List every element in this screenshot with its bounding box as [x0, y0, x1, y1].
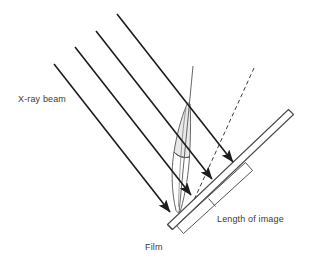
- label-film: Film: [145, 242, 163, 252]
- x-ray-beam-rays: [54, 14, 233, 212]
- xray-geometry-diagram: X-ray beam Film Length of image: [0, 0, 311, 264]
- x-ray-ray-2: [75, 47, 191, 195]
- label-length-of-image: Length of image: [217, 214, 284, 224]
- x-ray-ray-1: [54, 64, 170, 212]
- x-ray-ray-3: [96, 31, 212, 179]
- diagram-canvas: X-ray beam Film Length of image: [0, 0, 311, 264]
- label-xray-beam: X-ray beam: [18, 94, 66, 104]
- x-ray-ray-4: [117, 14, 233, 162]
